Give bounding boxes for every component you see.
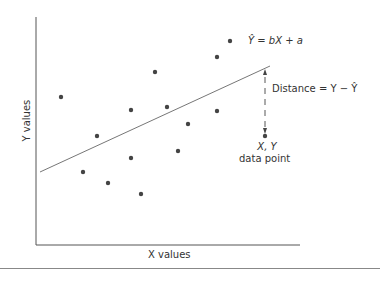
data-point (153, 70, 157, 74)
data-point (215, 55, 219, 59)
data-point (186, 122, 190, 126)
data-point (129, 156, 133, 160)
data-points (59, 39, 267, 196)
bottom-divider (0, 268, 380, 269)
regression-equation-label: Ŷ = bX + a (248, 35, 303, 46)
scatter-plot (0, 0, 380, 281)
arrow-down-icon (263, 128, 267, 134)
data-point (81, 170, 85, 174)
data-point (263, 134, 267, 138)
data-point (129, 108, 133, 112)
distance-label: Distance = Y − Ŷ (272, 83, 357, 94)
data-point (215, 109, 219, 113)
data-point (95, 134, 99, 138)
data-point (59, 95, 63, 99)
data-point (106, 181, 110, 185)
arrow-up-icon (263, 69, 267, 75)
data-point (139, 192, 143, 196)
y-axis-label: Y values (21, 102, 32, 142)
data-point (176, 149, 180, 153)
x-axis-label: X values (148, 249, 191, 260)
point-label-xy: X, Y (254, 141, 280, 152)
data-point (165, 105, 169, 109)
data-point (228, 39, 232, 43)
point-label-data-point: data point (239, 153, 290, 164)
regression-line (40, 66, 270, 172)
